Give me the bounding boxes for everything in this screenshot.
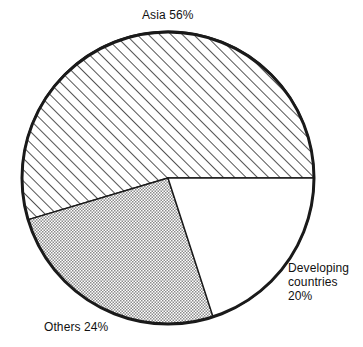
pie-label-developing-line-3: 20%: [288, 289, 349, 303]
pie-chart: Asia 56% Others 24% Developing countries…: [0, 0, 363, 347]
pie-label-developing-line-1: Developing: [288, 261, 349, 275]
pie-label-developing-countries: Developing countries 20%: [288, 261, 349, 303]
pie-label-asia: Asia 56%: [142, 9, 194, 23]
pie-label-developing-line-2: countries: [288, 275, 349, 289]
pie-label-others: Others 24%: [44, 321, 108, 335]
